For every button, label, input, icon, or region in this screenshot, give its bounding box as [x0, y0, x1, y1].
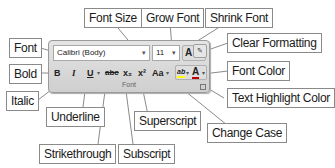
- chevron-down-icon[interactable]: ▾: [186, 67, 189, 79]
- font-size-dropdown[interactable]: 11 ▾: [152, 45, 180, 61]
- callout-underline: Underline: [46, 107, 105, 127]
- font-name-value: Calibri (Body): [57, 48, 105, 57]
- chevron-down-icon[interactable]: ▾: [97, 67, 100, 79]
- grow-font-button[interactable]: A: [185, 47, 192, 59]
- strikethrough-button[interactable]: abc: [105, 67, 119, 79]
- chevron-down-icon[interactable]: ▾: [172, 46, 176, 60]
- eraser-icon: ✎: [197, 47, 203, 54]
- font-name-dropdown[interactable]: Calibri (Body) ▾: [53, 45, 150, 61]
- superscript-button[interactable]: x²: [138, 67, 146, 79]
- callout-strikethrough: Strikethrough: [39, 144, 116, 164]
- font-ribbon-group: Calibri (Body) ▾ 11 ▾ A A B I U ▾ abc x₂…: [48, 40, 210, 93]
- callout-grow-font: Grow Font: [141, 8, 204, 28]
- callout-clear-formatting: Clear Formatting: [227, 33, 322, 53]
- clear-formatting-button[interactable]: ✎: [193, 44, 207, 58]
- underline-button[interactable]: U: [87, 67, 94, 79]
- chevron-down-icon[interactable]: ▾: [142, 46, 146, 60]
- dialog-launcher-icon[interactable]: [200, 84, 206, 90]
- chevron-down-icon[interactable]: ▾: [202, 67, 205, 79]
- change-case-button[interactable]: Aa: [152, 67, 164, 79]
- callout-change-case: Change Case: [207, 123, 287, 143]
- callout-font: Font: [9, 38, 42, 58]
- group-label: Font: [49, 81, 209, 88]
- callout-italic: Italic: [6, 91, 39, 111]
- callout-font-color: Font Color: [227, 61, 290, 81]
- callout-shrink-font: Shrink Font: [205, 8, 273, 28]
- callout-superscript: Superscript: [134, 111, 201, 131]
- subscript-button[interactable]: x₂: [123, 67, 132, 79]
- font-color-button[interactable]: A: [192, 66, 199, 79]
- callout-bold: Bold: [9, 64, 42, 84]
- bold-button[interactable]: B: [54, 67, 61, 79]
- font-size-value: 11: [156, 48, 164, 57]
- callout-text-highlight-color: Text Highlight Color: [227, 88, 335, 108]
- text-highlight-color-button[interactable]: ab: [177, 67, 185, 78]
- callout-font-size: Font Size: [84, 8, 142, 28]
- callout-subscript: Subscript: [118, 144, 175, 164]
- italic-button[interactable]: I: [72, 67, 76, 79]
- chevron-down-icon[interactable]: ▾: [166, 67, 169, 79]
